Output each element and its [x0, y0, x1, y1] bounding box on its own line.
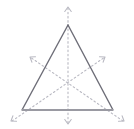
axis-from-bottom-left-line [12, 57, 105, 121]
geometry-diagram-canvas [0, 0, 134, 129]
triangle-right-edge [68, 25, 113, 110]
triangle-left-edge [22, 25, 68, 110]
symmetry-diagram-svg [0, 0, 134, 129]
axis-from-bottom-right-line [30, 57, 123, 121]
